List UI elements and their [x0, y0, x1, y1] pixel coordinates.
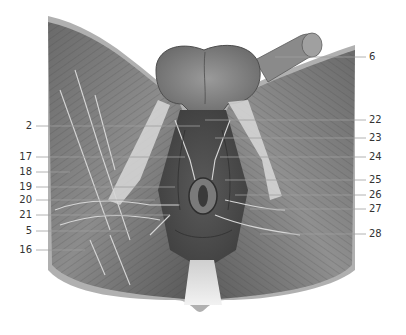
illustration	[0, 0, 406, 335]
label-24: 24	[369, 151, 393, 163]
label-6: 6	[369, 51, 393, 63]
label-17: 17	[12, 151, 32, 163]
label-25: 25	[369, 174, 393, 186]
label-16: 16	[12, 244, 32, 256]
label-2: 2	[12, 120, 32, 132]
label-28: 28	[369, 228, 393, 240]
label-27: 27	[369, 203, 393, 215]
label-19: 19	[12, 181, 32, 193]
label-26: 26	[369, 189, 393, 201]
label-5: 5	[12, 225, 32, 237]
label-21: 21	[12, 209, 32, 221]
label-18: 18	[12, 166, 32, 178]
anatomical-figure: 2 17 18 19 20 21 5 16 6 22 23 24 25 26 2…	[0, 0, 406, 335]
label-20: 20	[12, 194, 32, 206]
label-22: 22	[369, 114, 393, 126]
glans	[302, 33, 322, 57]
label-23: 23	[369, 132, 393, 144]
